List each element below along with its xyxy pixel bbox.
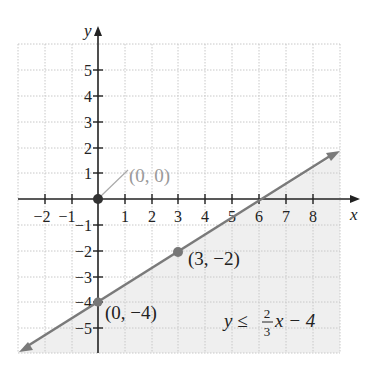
inequality-graph: −2 −1 1 2 3 4 5 6 7 8 5 4 3 2 1 −1 −2 −3… xyxy=(0,0,382,374)
y-tick-label: 4 xyxy=(84,88,92,105)
x-tick-label: 7 xyxy=(282,208,290,225)
x-tick-label: 8 xyxy=(309,208,317,225)
y-tick-label: −2 xyxy=(75,243,92,260)
origin-leader-line xyxy=(101,170,128,196)
ineq-rhs: x − 4 xyxy=(274,310,316,331)
y-tick-label: −3 xyxy=(75,269,92,286)
x-tick-label: 6 xyxy=(255,208,263,225)
point-origin xyxy=(93,194,103,204)
y-axis-arrow-icon xyxy=(94,26,102,36)
y-tick-label: 1 xyxy=(84,165,92,182)
x-tick-label: 2 xyxy=(148,208,156,225)
y-tick-label: −1 xyxy=(75,217,92,234)
x-tick-label: 3 xyxy=(174,208,182,225)
x-axis-label: x xyxy=(349,205,358,224)
ineq-denominator: 3 xyxy=(264,324,271,339)
y-tick-label: 3 xyxy=(84,114,92,131)
point-0-neg4 xyxy=(94,298,103,307)
y-tick-label: 2 xyxy=(84,140,92,157)
label-3-neg2: (3, −2) xyxy=(188,248,240,270)
x-tick-label: −2 xyxy=(33,208,50,225)
y-tick-label: −5 xyxy=(75,320,92,337)
x-tick-label: 4 xyxy=(201,208,209,225)
x-axis-arrow-icon xyxy=(350,195,360,203)
y-axis-label: y xyxy=(82,21,92,40)
y-tick-label: 5 xyxy=(84,62,92,79)
label-origin: (0, 0) xyxy=(129,165,170,187)
ineq-lhs: y ≤ xyxy=(222,310,248,331)
x-tick-label: 1 xyxy=(121,208,129,225)
label-0-neg4: (0, −4) xyxy=(105,302,157,324)
point-3-neg2 xyxy=(173,247,183,257)
x-tick-label: −1 xyxy=(58,208,75,225)
ineq-numerator: 2 xyxy=(264,306,271,321)
